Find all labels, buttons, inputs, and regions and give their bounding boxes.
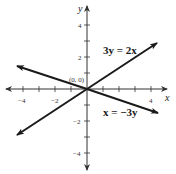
x-tick-4: 4: [149, 97, 153, 105]
y-tick-4: 4: [78, 22, 82, 30]
line2-label: x = −3y: [103, 106, 138, 118]
x-axis-label: x: [164, 92, 170, 103]
origin-label: (0, 0): [69, 76, 85, 84]
y-tick-neg2: −2: [73, 118, 81, 126]
line-3y-eq-2x-lower: [17, 89, 87, 135]
y-tick-neg4: −4: [73, 150, 81, 158]
x-tick-neg2: −2: [51, 97, 59, 105]
x-tick-neg4: −4: [18, 97, 26, 105]
y-tick-2: 2: [78, 54, 82, 62]
y-axis-label: y: [77, 3, 83, 14]
coordinate-plane: y x 4 2 −2 −4 −4 −2 4 (0, 0) 3y = 2x x =…: [0, 0, 176, 174]
line1-label: 3y = 2x: [103, 44, 137, 56]
